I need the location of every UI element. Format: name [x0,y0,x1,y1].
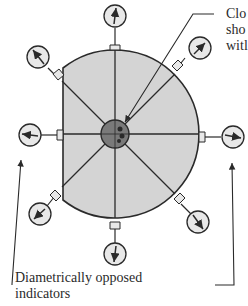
callout-label-bottom: Diametrically opposed indicators [15,270,142,302]
indicator-bottom [104,222,126,265]
callout-leader-right [215,163,234,285]
indicator-left [19,124,63,146]
callout-leader-left [12,160,21,285]
callout-text-line: Clo [226,6,248,22]
indicator-top-right [172,37,211,71]
callout-text-line: indicators [15,286,142,302]
callout-text-line: Diametrically opposed [15,270,142,286]
indicator-bottom-left [29,190,61,225]
indicator-top [104,5,126,50]
callout-text-line: witl [226,38,248,54]
indicator-top-left [27,46,64,80]
indicator-bottom-right [174,193,209,233]
center-hub [101,120,129,148]
callout-label-top: Clo sho witl [226,6,248,54]
indicator-right [199,126,244,148]
roundness-measurement-diagram [0,0,248,306]
callout-text-line: sho [226,22,248,38]
